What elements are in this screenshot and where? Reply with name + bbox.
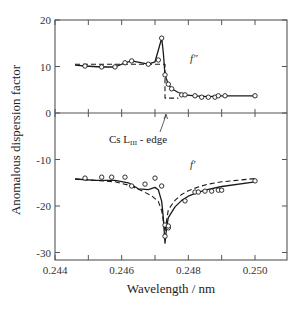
data-point-marker [83,176,87,180]
edge-annotation: Cs LIII - edge [109,133,167,147]
x-tick-label: 0.244 [43,264,68,276]
data-point-marker [129,184,133,188]
x-tick-label: 0.246 [109,264,134,276]
data-point-marker [166,82,170,86]
data-point-marker [183,199,187,203]
y-tick-label: -30 [36,247,51,259]
data-point-marker [253,179,257,183]
data-point-marker [99,65,103,69]
f-double-prime-label: f″ [190,52,198,64]
data-point-marker [206,95,210,99]
edge-arrow [160,115,166,132]
data-point-marker [196,190,200,194]
y-tick-label: 10 [40,61,52,73]
data-point-marker [129,59,133,63]
plot-frame [55,20,287,260]
data-point-marker [253,94,257,98]
x-tick-label: 0.250 [243,264,268,276]
data-point-marker [193,94,197,98]
edge-label-suffix: - edge [137,133,167,145]
data-point-marker [123,175,127,179]
chart: 0.2440.2460.2480.25020100-10-20-30 Wavel… [0,0,303,311]
data-point-marker [143,182,147,186]
data-point-marker [99,175,103,179]
data-point-marker [153,176,157,180]
data-point-marker [163,234,167,238]
y-tick-label: -20 [36,200,51,212]
data-point-marker [113,65,117,69]
data-point-marker [216,94,220,98]
axes: 0.2440.2460.2480.25020100-10-20-30 [36,14,287,276]
x-axis-title: Wavelength / nm [127,281,216,296]
data-point-marker [183,93,187,97]
data-point-marker [159,184,163,188]
data-point-marker [203,189,207,193]
data-point-marker [223,94,227,98]
annotations: Wavelength / nm Anomalous dispersion fac… [8,52,215,296]
data-point-marker [146,62,150,66]
data-point-marker [83,64,87,68]
data-point-marker [219,188,223,192]
data-point-marker [159,36,163,40]
y-tick-label: 0 [46,107,52,119]
fit-curve-solid [75,179,255,243]
data-point-marker [209,189,213,193]
data-point-marker [123,61,127,65]
data-point-marker [166,224,170,228]
data-point-marker [169,87,173,91]
data-point-marker [156,58,160,62]
data-point-marker [109,175,113,179]
theory-curve-dashed [75,64,178,98]
edge-label-main: Cs L [109,133,130,145]
y-axis-title: Anomalous dispersion factor [8,64,23,215]
y-tick-label: 20 [40,14,52,26]
y-tick-label: -10 [36,154,51,166]
x-tick-label: 0.248 [176,264,201,276]
data-point-marker [199,95,203,99]
f-prime-label: f′ [190,158,196,170]
data-point-marker [163,73,167,77]
